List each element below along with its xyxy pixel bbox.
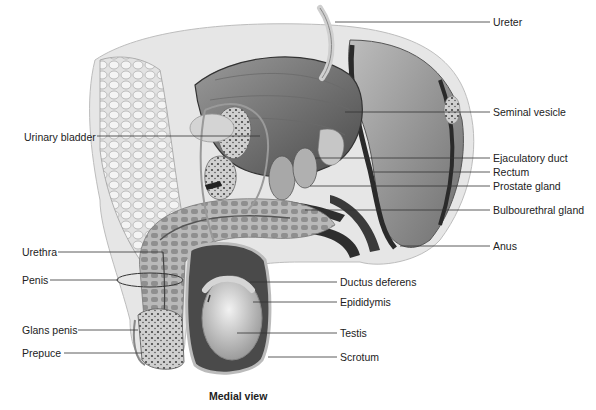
- label-ductus-deferens: Ductus deferens: [340, 276, 416, 288]
- label-epididymis: Epididymis: [340, 296, 391, 308]
- label-bulbourethral-gland: Bulbourethral gland: [493, 204, 584, 216]
- label-testis: Testis: [340, 327, 367, 339]
- label-seminal-vesicle: Seminal vesicle: [493, 106, 566, 118]
- anatomy-figure: Urinary bladder Urethra Penis Glans peni…: [0, 0, 596, 410]
- label-urinary-bladder: Urinary bladder: [24, 131, 96, 143]
- label-ejaculatory-duct: Ejaculatory duct: [493, 152, 568, 164]
- label-anus: Anus: [493, 240, 517, 252]
- label-ureter: Ureter: [493, 16, 522, 28]
- label-urethra: Urethra: [22, 246, 57, 258]
- label-prostate-gland: Prostate gland: [493, 180, 561, 192]
- label-scrotum: Scrotum: [340, 351, 379, 363]
- label-prepuce: Prepuce: [22, 347, 61, 359]
- label-glans-penis: Glans penis: [22, 324, 77, 336]
- label-rectum: Rectum: [493, 166, 529, 178]
- label-penis: Penis: [22, 274, 48, 286]
- figure-caption: Medial view: [209, 390, 267, 402]
